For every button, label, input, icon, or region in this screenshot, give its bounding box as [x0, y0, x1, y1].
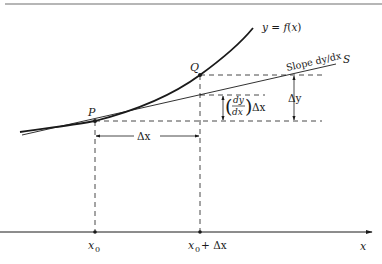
svg-text:+ Δx: + Δx [201, 239, 227, 251]
tick-x0-dx [198, 230, 202, 234]
svg-text:x: x [188, 239, 195, 252]
curve-f [20, 28, 253, 132]
svg-text:0: 0 [95, 245, 100, 254]
tick-x0 [93, 230, 97, 234]
label-delta-x: Δx [137, 130, 151, 142]
svg-text:dy: dy [233, 95, 245, 105]
svg-text:Δx: Δx [252, 101, 266, 113]
label-delta-y: Δy [288, 92, 302, 104]
label-x0: x 0 [88, 239, 100, 254]
label-tangent-s: S [343, 53, 350, 65]
svg-text:0: 0 [195, 245, 200, 254]
x-axis-label: x [360, 240, 367, 253]
label-tangent-increment: ( dy dx ) Δx [225, 95, 266, 117]
derivative-diagram: x P Q y = f(x) Slope dy/dx S Δx Δy ( dy … [0, 0, 382, 264]
label-slope: Slope dy/dx [285, 50, 343, 73]
point-p [93, 119, 97, 123]
svg-text:x: x [88, 239, 95, 252]
label-p: P [87, 106, 96, 119]
svg-text:dx: dx [232, 107, 243, 117]
label-q: Q [190, 61, 199, 74]
label-curve: y = f(x) [261, 21, 301, 33]
label-x0-plus-dx: x 0 + Δx [188, 239, 227, 254]
